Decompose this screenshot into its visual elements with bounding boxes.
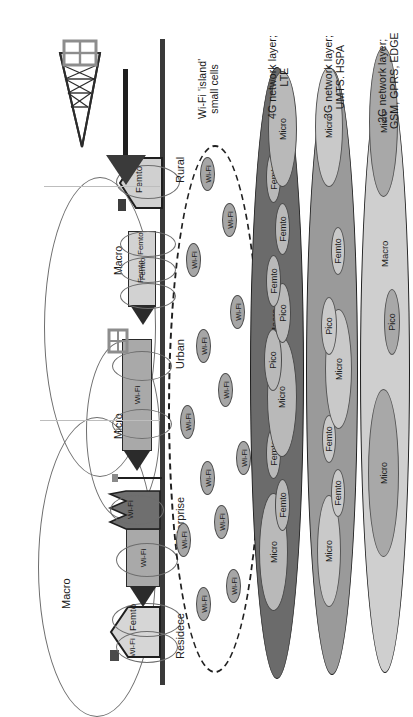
enterprise-building-wifi-coverage bbox=[110, 495, 164, 525]
wifi-small-cell-label: Wi-Fi bbox=[203, 165, 212, 183]
layer-2g-cell-label: Micro bbox=[379, 462, 389, 484]
wifi-small-cell-label: Wi-Fi bbox=[221, 381, 230, 399]
residence-femto-coverage bbox=[112, 603, 182, 637]
wifi-small-cell: Wi-Fi bbox=[196, 329, 211, 363]
wifi-small-cell-label: Wi-Fi bbox=[239, 449, 248, 467]
separator-line-2 bbox=[44, 186, 160, 187]
wifi-small-cell-label: Wi-Fi bbox=[199, 595, 208, 613]
wifi-small-cell-label: Wi-Fi bbox=[189, 251, 198, 269]
wifi-small-cell-label: Wi-Fi bbox=[217, 513, 226, 531]
legend-3g-line2: UMTS. HSPA bbox=[334, 35, 346, 119]
layer-4g-cell-femto: Femto bbox=[275, 479, 290, 531]
micro-mast-top bbox=[112, 474, 118, 482]
legend-wifi-island-line1: Wi-Fi 'island' bbox=[196, 59, 208, 119]
legend-3g-line1: 3G network layer; bbox=[322, 35, 334, 119]
enterprise-building-wifi-label: Wi-Fi bbox=[126, 500, 135, 519]
macro-label-far: Macro bbox=[60, 578, 73, 609]
urban-wifi-bar-label: Wi-Fi bbox=[133, 386, 142, 405]
env-label-rural: Rural bbox=[174, 157, 187, 183]
layer-4g-cell-label: Micro bbox=[277, 386, 287, 408]
layer-2g-cell-pico: Pico bbox=[384, 289, 400, 355]
micro-mast-stem bbox=[118, 477, 162, 479]
legend-4g-line2: LTE bbox=[278, 35, 290, 119]
legend-2g-line2: GSM, GPRS, EDGE bbox=[388, 32, 400, 129]
env-label-residence: Residece bbox=[174, 613, 187, 659]
wifi-small-cell: Wi-Fi bbox=[186, 243, 201, 277]
legend-4g: 4G network layer; LTE bbox=[266, 35, 290, 119]
urban-femto-coverage-2 bbox=[120, 257, 176, 283]
wifi-small-cell-label: Wi-Fi bbox=[183, 413, 192, 431]
layer-4g-cell-label: Pico bbox=[278, 304, 288, 322]
layer-4g-cell-label: Femto bbox=[278, 216, 288, 242]
wifi-small-cell: Wi-Fi bbox=[236, 441, 251, 475]
legend-4g-line1: 4G network layer; bbox=[266, 35, 278, 119]
layer-2g-macro-label-b: Macro bbox=[380, 241, 391, 267]
wifi-small-cell: Wi-Fi bbox=[226, 569, 241, 603]
layer-3g-cell-femto: Femto bbox=[331, 469, 345, 517]
wifi-small-cell: Wi-Fi bbox=[176, 523, 191, 557]
wifi-small-cell: Wi-Fi bbox=[196, 587, 211, 621]
urban-femto-coverage-3 bbox=[120, 231, 176, 257]
wifi-small-cell: Wi-Fi bbox=[200, 157, 215, 191]
layer-4g-cell-label: Pico bbox=[268, 351, 278, 369]
wifi-small-cell: Wi-Fi bbox=[214, 505, 229, 539]
layer-3g-cell-label: Femto bbox=[324, 426, 334, 452]
wifi-small-cell-label: Wi-Fi bbox=[179, 531, 188, 549]
wifi-small-cell: Wi-Fi bbox=[200, 461, 215, 495]
rural-macro-stem bbox=[123, 69, 128, 155]
layer-3g-cell-label: Femto bbox=[333, 238, 343, 264]
enterprise-wifi-coverage bbox=[116, 543, 178, 577]
separator-line-1 bbox=[40, 420, 160, 421]
layer-3g-cell-label: Pico bbox=[324, 317, 334, 335]
legend-wifi-island-line2: small cells bbox=[208, 59, 220, 119]
rural-macro-arrow-icon bbox=[106, 155, 146, 185]
wifi-small-cell-label: Wi-Fi bbox=[225, 211, 234, 229]
urban-wifi-coverage-a bbox=[112, 409, 172, 439]
wifi-small-cell: Wi-Fi bbox=[180, 405, 195, 439]
wifi-small-cell: Wi-Fi bbox=[218, 373, 233, 407]
layer-2g-cell-label: Pico bbox=[387, 313, 397, 331]
urban-femto-coverage-1 bbox=[120, 283, 176, 309]
layer-2g-cell-micro: Micro bbox=[368, 389, 399, 557]
layer-4g-cell-label: Micro bbox=[278, 118, 288, 140]
urban-femto-label-3: Femto bbox=[136, 232, 145, 255]
layer-3g-cell-label: Femto bbox=[333, 480, 343, 506]
legend-2g-line1: 2G network layer; bbox=[376, 32, 388, 129]
wifi-small-cell: Wi-Fi bbox=[222, 203, 237, 237]
layer-3g-cell-label: Micro bbox=[334, 358, 344, 380]
wifi-small-cell: Wi-Fi bbox=[230, 295, 245, 329]
urban-bar-arrow-icon bbox=[124, 451, 150, 471]
urban-wifi-coverage-b bbox=[112, 351, 172, 381]
enterprise-arrow-icon bbox=[130, 587, 156, 607]
urban-mast-icon bbox=[108, 327, 130, 353]
layer-3g-cell-label: Micro bbox=[324, 540, 334, 562]
legend-2g: 2G network layer; GSM, GPRS, EDGE bbox=[376, 32, 400, 129]
lattice-mast-top-icon bbox=[62, 39, 98, 67]
residence-wifi-label: Wi-Fi bbox=[128, 638, 137, 657]
wifi-small-cell-label: Wi-Fi bbox=[199, 337, 208, 355]
layer-4g-cell-femto: Femto bbox=[266, 255, 281, 307]
layer-4g-cell-label: Femto bbox=[278, 492, 288, 518]
wifi-small-cell-label: Wi-Fi bbox=[203, 469, 212, 487]
legend-3g: 3G network layer; UMTS. HSPA bbox=[322, 35, 346, 119]
urban-femto-label-2: Femto bbox=[136, 260, 145, 283]
legend-wifi-island: Wi-Fi 'island' small cells bbox=[196, 59, 220, 119]
wifi-small-cell-label: Wi-Fi bbox=[233, 303, 242, 321]
residence-femto-label: Femto bbox=[128, 604, 139, 631]
layer-4g-cell-femto: Femto bbox=[275, 203, 290, 255]
wifi-small-cell-label: Wi-Fi bbox=[229, 577, 238, 595]
layer-3g-cell-pico: Pico bbox=[321, 297, 337, 355]
layer-3g-cell-femto: Femto bbox=[331, 227, 345, 275]
layer-4g-cell-label: Micro bbox=[269, 541, 279, 563]
layer-3g-cell-label: Micro bbox=[324, 116, 334, 138]
layer-4g-cell-label: Femto bbox=[269, 268, 279, 294]
